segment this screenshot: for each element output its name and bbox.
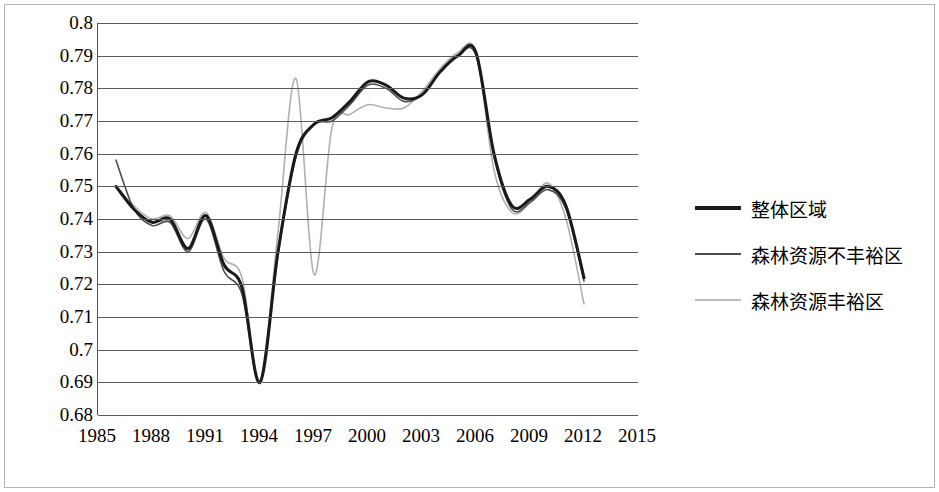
y-tick-label: 0.8 bbox=[33, 13, 93, 32]
chart-frame: 0.80.790.780.770.760.750.740.730.720.710… bbox=[4, 4, 935, 488]
gridline bbox=[98, 154, 638, 155]
series-line bbox=[116, 48, 584, 383]
legend-swatch bbox=[695, 206, 741, 210]
y-tick-label: 0.77 bbox=[33, 111, 93, 130]
legend-swatch bbox=[695, 299, 741, 301]
series-line bbox=[116, 43, 584, 383]
y-tick-label: 0.75 bbox=[33, 176, 93, 195]
y-tick-label: 0.69 bbox=[33, 372, 93, 391]
x-tick-label: 1991 bbox=[186, 425, 224, 447]
x-tick-label: 2015 bbox=[618, 425, 656, 447]
x-tick-label: 1985 bbox=[78, 425, 116, 447]
plot-area: 0.80.790.780.770.760.750.740.730.720.710… bbox=[27, 23, 637, 443]
legend-item: 整体区域 bbox=[695, 185, 925, 231]
chart-screenshot: 0.80.790.780.770.760.750.740.730.720.710… bbox=[0, 0, 939, 492]
legend-label: 森林资源丰裕区 bbox=[751, 287, 884, 314]
gridline bbox=[98, 56, 638, 57]
x-tick-label: 1988 bbox=[132, 425, 170, 447]
x-tick-label: 2012 bbox=[564, 425, 602, 447]
legend-item: 森林资源不丰裕区 bbox=[695, 231, 925, 277]
y-tick-label: 0.71 bbox=[33, 307, 93, 326]
y-tick-label: 0.72 bbox=[33, 274, 93, 293]
legend-item: 森林资源丰裕区 bbox=[695, 277, 925, 323]
gridline bbox=[98, 23, 638, 24]
x-tick-label: 2009 bbox=[510, 425, 548, 447]
gridline bbox=[98, 186, 638, 187]
x-tick-label: 1997 bbox=[294, 425, 332, 447]
gridline bbox=[98, 219, 638, 220]
gridline bbox=[98, 350, 638, 351]
gridline bbox=[98, 284, 638, 285]
y-tick-label: 0.79 bbox=[33, 46, 93, 65]
gridline bbox=[98, 252, 638, 253]
legend-label: 整体区域 bbox=[751, 195, 827, 222]
y-tick-label: 0.76 bbox=[33, 144, 93, 163]
x-tick-label: 2006 bbox=[456, 425, 494, 447]
gridline bbox=[98, 88, 638, 89]
legend-label: 森林资源不丰裕区 bbox=[751, 241, 903, 268]
chart-legend: 整体区域森林资源不丰裕区森林资源丰裕区 bbox=[695, 185, 925, 323]
y-axis-tick-labels: 0.80.790.780.770.760.750.740.730.720.710… bbox=[27, 23, 97, 415]
y-tick-label: 0.78 bbox=[33, 78, 93, 97]
y-tick-label: 0.74 bbox=[33, 209, 93, 228]
gridline bbox=[98, 121, 638, 122]
y-tick-label: 0.73 bbox=[33, 242, 93, 261]
x-tick-label: 2003 bbox=[402, 425, 440, 447]
y-tick-label: 0.68 bbox=[33, 405, 93, 424]
legend-swatch bbox=[695, 253, 741, 255]
gridline bbox=[98, 317, 638, 318]
plot-canvas bbox=[97, 23, 637, 415]
x-tick-label: 2000 bbox=[348, 425, 386, 447]
x-tick-label: 1994 bbox=[240, 425, 278, 447]
y-tick-label: 0.7 bbox=[33, 340, 93, 359]
gridline bbox=[98, 382, 638, 383]
x-axis-tick-labels: 1985198819911994199720002003200620092012… bbox=[97, 415, 637, 449]
